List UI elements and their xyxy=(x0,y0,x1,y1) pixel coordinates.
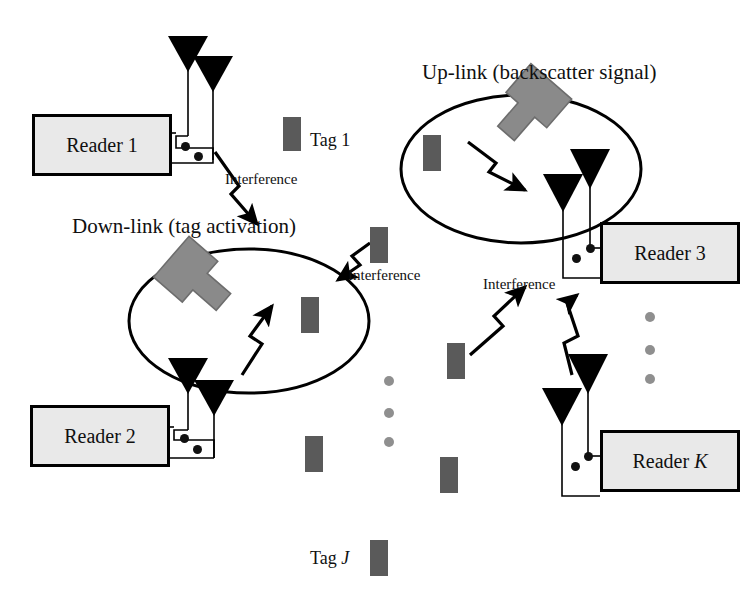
interference-label-1: Interference xyxy=(225,172,297,187)
tag-rect-tag-j xyxy=(370,540,388,576)
reader-k-box[interactable]: Reader K xyxy=(600,430,740,492)
reader-3-connector-dot-a xyxy=(586,244,595,253)
reader-1-connector-dot-a xyxy=(181,142,190,151)
reader-3-label: Reader 3 xyxy=(603,243,737,263)
reader-2-box[interactable]: Reader 2 xyxy=(30,405,170,467)
ellipsis-dot-right-1 xyxy=(645,312,655,322)
downlink-signal-bolt xyxy=(242,306,272,375)
tag-j-label-index: J xyxy=(341,548,349,568)
tag-rect-downlink-inside xyxy=(301,297,319,333)
reader-1-label: Reader 1 xyxy=(35,135,169,155)
ellipsis-dot-right-2 xyxy=(645,345,655,355)
tag-rect-lower-left xyxy=(305,436,323,472)
reader-1-connector-dot-b xyxy=(194,152,203,161)
reader-2-connector-dot-a xyxy=(180,434,189,443)
reader-2-label: Reader 2 xyxy=(33,426,167,446)
interference-label-2: Interference xyxy=(348,268,420,283)
tag-rect-center xyxy=(447,343,465,379)
ellipsis-dot-center-2 xyxy=(384,408,394,418)
reader-1-box[interactable]: Reader 1 xyxy=(32,114,172,176)
ellipsis-dot-center-3 xyxy=(384,437,394,447)
interference-label-3: Interference xyxy=(483,277,555,292)
reader-1-antennas xyxy=(168,36,233,163)
reader-k-connector-dot-a xyxy=(584,452,593,461)
reader-k-antennas xyxy=(542,354,608,496)
reader-2-connector-dot-b xyxy=(193,445,202,454)
uplink-signal-bolt xyxy=(468,142,525,190)
tag-j-label-prefix: Tag xyxy=(310,548,341,568)
antenna-icon xyxy=(542,388,582,426)
uplink-title: Up-link (backscatter signal) xyxy=(422,62,656,83)
ellipsis-dot-right-3 xyxy=(645,374,655,384)
reader-3-connector-dot-b xyxy=(572,254,581,263)
reader-k-label: Reader K xyxy=(603,451,737,471)
tag-rect-lower-center xyxy=(440,457,458,493)
interference-bolt-3 xyxy=(470,287,525,355)
tag-rect-1 xyxy=(283,117,301,151)
reader-2-antennas xyxy=(168,358,234,458)
tag-j-label: Tag J xyxy=(310,549,349,567)
antenna-icon xyxy=(193,56,233,92)
tag-1-label: Tag 1 xyxy=(310,131,350,149)
diagram-vector-layer xyxy=(0,0,755,597)
reader-k-connector-dot-b xyxy=(571,462,580,471)
tag-rect-mid-upper xyxy=(370,227,388,263)
reader-k-label-prefix: Reader xyxy=(633,450,695,472)
antenna-icon xyxy=(194,380,234,416)
tag-rect-uplink-inside xyxy=(423,135,441,171)
rfid-network-diagram: Reader 1 Reader 2 Reader 3 Reader K Up-l… xyxy=(0,0,755,597)
antenna-icon xyxy=(543,174,583,212)
reader-3-box[interactable]: Reader 3 xyxy=(600,222,740,284)
downlink-title: Down-link (tag activation) xyxy=(72,216,296,237)
reader-k-label-index: K xyxy=(694,450,707,472)
ellipsis-dot-center-1 xyxy=(384,376,394,386)
